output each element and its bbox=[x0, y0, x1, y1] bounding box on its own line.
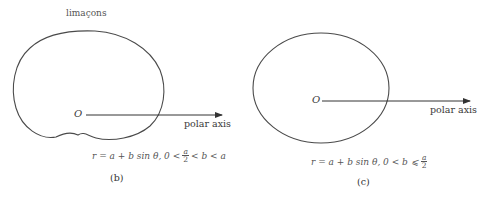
formula-b-lhs: r = a + b sin θ, 0 < bbox=[92, 151, 180, 161]
dimpled-limacon-curve bbox=[13, 31, 164, 140]
origin-label-c: O bbox=[312, 94, 320, 105]
caption-b: (b) bbox=[110, 172, 124, 183]
convex-limacon-curve bbox=[253, 33, 389, 143]
formula-b: r = a + b sin θ, 0 < a 2 < b < a bbox=[92, 148, 226, 163]
formula-b-rhs: < b < a bbox=[191, 151, 226, 161]
figure-title: limaçons bbox=[66, 8, 107, 18]
formula-c-fraction: a 2 bbox=[421, 154, 428, 169]
polar-axis-label-b: polar axis bbox=[184, 118, 231, 129]
formula-b-frac-den: 2 bbox=[182, 156, 189, 163]
polar-axis-label-c: polar axis bbox=[430, 104, 477, 115]
formula-b-fraction: a 2 bbox=[182, 148, 189, 163]
formula-c-frac-den: 2 bbox=[421, 162, 428, 169]
formula-c-lhs: r = a + b sin θ, 0 < b ⩽ bbox=[311, 157, 419, 167]
panel-c bbox=[253, 33, 470, 143]
formula-c: r = a + b sin θ, 0 < b ⩽ a 2 bbox=[311, 154, 430, 169]
origin-label-b: O bbox=[74, 108, 82, 119]
caption-c: (c) bbox=[357, 176, 370, 187]
